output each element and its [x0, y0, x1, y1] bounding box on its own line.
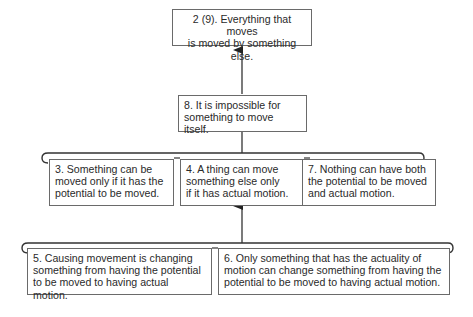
- node-text: potential to be moved to having actual m…: [224, 276, 444, 288]
- node-text: 7. Nothing can have both: [308, 163, 430, 175]
- node-text: moved only if it has the: [55, 175, 168, 187]
- node-text: the potential to be moved: [308, 175, 430, 187]
- node-text: something else only: [186, 175, 298, 187]
- node-text: 5. Causing movement is changing: [33, 252, 206, 264]
- node-text: 2 (9). Everything that moves: [178, 13, 306, 37]
- node-text: something to move itself.: [184, 111, 301, 135]
- node-premise-5: 5. Causing movement is changing somethin…: [27, 248, 212, 295]
- node-text: to be moved to having actual motion.: [33, 276, 206, 300]
- node-premise-7: 7. Nothing can have both the potential t…: [302, 159, 436, 206]
- node-text: and actual motion.: [308, 187, 430, 199]
- node-premise-4: 4. A thing can move something else only …: [180, 159, 304, 206]
- node-text: something from having the potential: [33, 264, 206, 276]
- node-text: 4. A thing can move: [186, 163, 298, 175]
- node-text: if it has actual motion.: [186, 187, 298, 199]
- node-text: is moved by something else.: [178, 37, 306, 61]
- node-text: potential to be moved.: [55, 187, 168, 199]
- node-premise-3: 3. Something can be moved only if it has…: [49, 159, 174, 206]
- node-text: 8. It is impossible for: [184, 99, 301, 111]
- node-text: 6. Only something that has the actuality…: [224, 252, 444, 264]
- node-text: 3. Something can be: [55, 163, 168, 175]
- node-conclusion: 2 (9). Everything that moves is moved by…: [172, 9, 312, 46]
- node-text: motion can change something from having …: [224, 264, 444, 276]
- node-intermediate: 8. It is impossible for something to mov…: [178, 95, 307, 132]
- node-premise-6: 6. Only something that has the actuality…: [218, 248, 450, 295]
